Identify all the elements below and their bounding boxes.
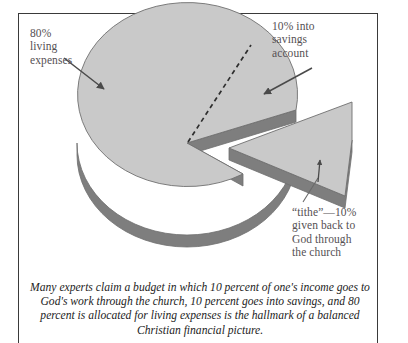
callout-savings-account: 10% into savings account xyxy=(272,20,376,60)
callout-living-expenses: 80% living expenses xyxy=(30,27,126,67)
figure-caption: Many experts claim a budget in which 10 … xyxy=(26,281,374,338)
callout-tithe: “tithe”—10% given back to God through th… xyxy=(292,206,388,260)
